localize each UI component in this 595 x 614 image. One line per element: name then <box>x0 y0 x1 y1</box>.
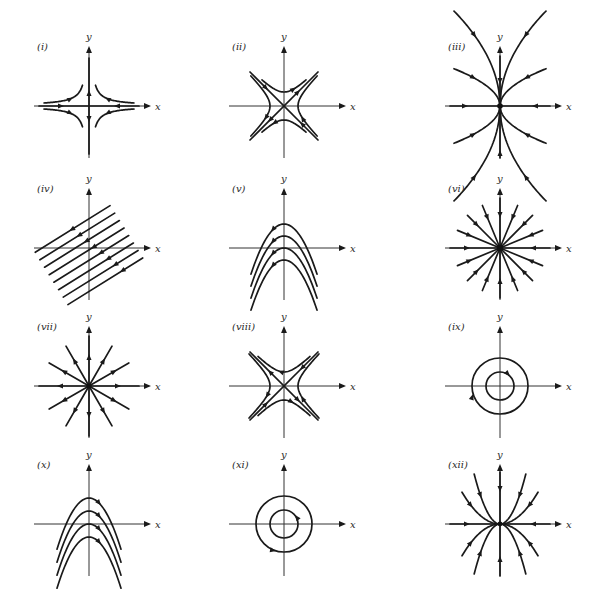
arrowhead-icon <box>295 515 301 521</box>
arrowhead-icon <box>484 276 489 283</box>
trajectory <box>474 524 500 574</box>
trajectory <box>44 109 83 127</box>
y-axis-label: y <box>85 311 92 322</box>
y-axis-label: y <box>496 31 503 42</box>
x-axis-label: x <box>155 101 161 112</box>
x-axis-label: x <box>155 519 161 530</box>
phase-portrait-panel-i: xy(i) <box>34 31 161 158</box>
arrowhead-icon <box>464 245 470 250</box>
x-axis-label: x <box>350 243 356 254</box>
arrowhead-icon <box>528 232 535 237</box>
y-axis-label: y <box>496 449 503 460</box>
arrowhead-icon <box>281 188 287 195</box>
arrowhead-icon <box>497 278 502 284</box>
panels-root: xy(i)xy(ii)xy(iii)xy(iv)xy(v)xy(vi)xy(vi… <box>34 11 572 588</box>
trajectory <box>500 215 533 248</box>
trajectory <box>44 85 83 103</box>
phase-portrait-panel-vii: xy(vii) <box>34 311 161 438</box>
panel-label: (xi) <box>232 459 249 470</box>
arrowhead-icon <box>497 46 503 53</box>
arrowhead-icon <box>281 464 287 471</box>
y-axis-label: y <box>496 311 503 322</box>
trajectory <box>45 221 120 268</box>
arrowhead-icon <box>518 550 523 556</box>
arrowhead-icon <box>86 116 91 122</box>
arrowhead-icon <box>555 521 562 527</box>
arrowhead-icon <box>86 90 91 96</box>
arrowhead-icon <box>58 103 64 108</box>
arrowhead-icon <box>57 383 63 388</box>
trajectory <box>500 107 546 144</box>
arrowhead-icon <box>511 276 516 283</box>
arrowhead-icon <box>86 188 92 195</box>
trajectory <box>54 236 129 283</box>
trajectory <box>68 258 143 305</box>
arrowhead-icon <box>281 46 287 53</box>
arrowhead-icon <box>497 188 503 195</box>
y-axis-label: y <box>280 31 287 42</box>
arrowhead-icon <box>144 103 151 109</box>
arrowhead-icon <box>528 259 535 264</box>
arrowhead-icon <box>511 214 516 221</box>
arrowhead-icon <box>497 326 503 333</box>
trajectory <box>454 107 500 144</box>
x-axis-label: x <box>155 381 161 392</box>
arrowhead-icon <box>555 245 562 251</box>
phase-portrait-panel-ii: xy(ii) <box>229 31 356 158</box>
phase-portrait-panel-xii: xy(xii) <box>445 449 572 576</box>
phase-portrait-panel-iv: xy(iv) <box>34 173 161 305</box>
trajectory <box>500 248 533 281</box>
panel-label: (i) <box>37 41 48 52</box>
arrowhead-icon <box>339 521 346 527</box>
y-axis-label: y <box>280 311 287 322</box>
x-axis-label: x <box>566 101 572 112</box>
arrowhead-icon <box>497 464 503 471</box>
panel-label: (vi) <box>448 183 465 194</box>
panel-label: (viii) <box>232 321 255 332</box>
arrowhead-icon <box>497 78 502 84</box>
arrowhead-icon <box>555 103 562 109</box>
arrowhead-icon <box>477 492 482 498</box>
trajectory <box>49 228 124 275</box>
arrowhead-icon <box>518 492 523 498</box>
arrowhead-icon <box>462 103 468 108</box>
arrowhead-icon <box>86 46 92 53</box>
panel-label: (v) <box>232 183 246 194</box>
phase-portrait-panel-ix: xy(ix) <box>445 311 572 438</box>
trajectory <box>96 85 135 103</box>
x-axis-label: x <box>155 243 161 254</box>
trajectory <box>467 215 500 248</box>
panel-label: (ii) <box>232 41 246 52</box>
phase-portrait-panel-iii: xy(iii) <box>445 11 572 201</box>
arrowhead-icon <box>530 521 536 526</box>
trajectory <box>59 243 134 290</box>
arrowhead-icon <box>115 383 121 388</box>
arrowhead-icon <box>497 486 502 492</box>
trajectory <box>467 248 500 281</box>
phase-portrait-panel-viii: xy(viii) <box>229 311 356 438</box>
arrowhead-icon <box>530 245 536 250</box>
arrowhead-icon <box>86 464 92 471</box>
phase-portrait-panel-v: xy(v) <box>229 173 356 310</box>
y-axis-label: y <box>85 449 92 460</box>
panel-label: (xii) <box>448 459 468 470</box>
arrowhead-icon <box>497 212 502 218</box>
arrowhead-icon <box>144 245 151 251</box>
equilibrium-point <box>497 245 503 251</box>
arrowhead-icon <box>484 214 489 221</box>
y-axis-label: y <box>496 173 503 184</box>
x-axis-label: x <box>566 381 572 392</box>
arrowhead-icon <box>532 103 538 108</box>
arrowhead-icon <box>86 412 91 418</box>
phase-portrait-panel-vi: xy(vi) <box>445 173 572 300</box>
arrowhead-icon <box>464 521 470 526</box>
phase-portrait-grid: xy(i)xy(ii)xy(iii)xy(iv)xy(v)xy(vi)xy(vi… <box>0 0 595 614</box>
y-axis-label: y <box>85 173 92 184</box>
arrowhead-icon <box>339 383 346 389</box>
phase-portrait-panel-xi: xy(xi) <box>229 449 356 576</box>
trajectory <box>500 524 526 574</box>
y-axis-label: y <box>85 31 92 42</box>
y-axis-label: y <box>280 173 287 184</box>
arrowhead-icon <box>86 326 92 333</box>
arrowhead-icon <box>86 354 91 360</box>
